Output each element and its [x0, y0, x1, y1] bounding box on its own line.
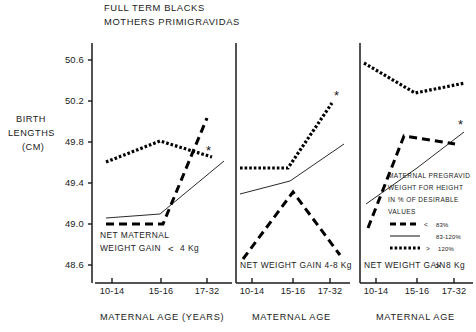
y-axis-label-line2: LENGTHS [8, 128, 55, 138]
legend-item-83-120: 83-120% [390, 234, 462, 240]
y-tick-49-4: 49.4 [65, 177, 84, 188]
panel-2-x-axis: 10-14 15-16 17-32 [236, 278, 350, 296]
panel-2-x-tick-1: 10-14 [240, 286, 265, 296]
panel-1-x-axis-label: MATERNAL AGE (YEARS) [100, 312, 224, 322]
y-tick-49-0: 49.0 [65, 218, 84, 229]
panel-3-significance-marker: * [458, 117, 463, 132]
birth-lengths-multi-panel-chart: FULL TERM BLACKS MOTHERS PRIMIGRAVIDAS B… [0, 0, 476, 332]
y-axis: 50.6 50.2 49.8 49.4 49.0 48.6 [65, 43, 92, 283]
panel-1-series-83-120 [106, 161, 224, 218]
panel-2-significance-marker: * [334, 88, 339, 103]
panel-2: 10-14 15-16 17-32 * NET WEIGHT GAIN 4-8 … [236, 43, 352, 322]
panel-3-caption-line1: NET WEIGHT GAIN [364, 260, 446, 270]
panel-2-x-tick-3: 17-32 [318, 286, 343, 296]
panel-1-x-tick-2: 15-16 [149, 286, 174, 296]
legend-operator-gt120: > [426, 245, 430, 252]
y-axis-label-line1: BIRTH [16, 114, 46, 124]
panel-3-caption-operator: > [435, 260, 441, 271]
panel-1: 10-14 15-16 17-32 * NET MATERNAL WEIGHT … [95, 118, 232, 322]
panel-3-x-axis: 10-14 15-16 17-32 [360, 278, 473, 296]
panel-1-x-axis: 10-14 15-16 17-32 [95, 278, 232, 296]
panel-1-caption-value: 4 Kg [180, 243, 199, 253]
panel-2-series-lt83 [243, 192, 340, 259]
chart-title-line1: FULL TERM BLACKS [104, 2, 205, 13]
legend: MATERNAL PREGRAVID WEIGHT FOR HEIGHT IN … [388, 172, 470, 252]
legend-title-line3: IN % OF DESIRABLE [388, 196, 459, 203]
panel-3-series-gt120 [364, 63, 465, 93]
panel-1-caption-line1: NET MATERNAL [100, 230, 169, 240]
y-tick-50-2: 50.2 [65, 95, 84, 106]
y-tick-49-8: 49.8 [65, 136, 84, 147]
legend-label-83-120: 83-120% [436, 234, 462, 240]
panel-1-x-tick-1: 10-14 [100, 286, 125, 296]
y-axis-label-line3: (CM) [22, 142, 44, 152]
legend-item-gt120: > 120% [390, 245, 454, 252]
panel-3-x-axis-label: MATERNAL AGE [376, 312, 455, 322]
legend-label-lt83: 83% [436, 222, 449, 228]
panel-2-x-axis-label: MATERNAL AGE [252, 312, 331, 322]
panel-3-x-tick-3: 17-32 [442, 286, 467, 296]
legend-operator-lt83: < [424, 221, 428, 228]
legend-label-gt120: 120% [438, 246, 454, 252]
legend-title-line4: VALUES [388, 208, 416, 215]
legend-title-line2: WEIGHT FOR HEIGHT [388, 184, 463, 191]
panel-1-caption-line2: WEIGHT GAIN [100, 243, 161, 253]
panel-2-x-tick-2: 15-16 [281, 286, 306, 296]
panel-3: 10-14 15-16 17-32 * MATERNAL PREGRAVID W… [360, 43, 473, 322]
legend-item-lt83: < 83% [390, 221, 449, 228]
panel-1-significance-marker: * [206, 143, 211, 158]
panel-3-x-tick-2: 15-16 [405, 286, 430, 296]
panel-1-series-lt83 [106, 118, 207, 224]
panel-3-x-tick-1: 10-14 [364, 286, 389, 296]
panel-3-caption-value: 8 Kg [446, 260, 465, 270]
y-tick-50-6: 50.6 [65, 54, 84, 65]
chart-title-line2: MOTHERS PRIMIGRAVIDAS [104, 16, 240, 27]
panel-1-caption-operator: < [168, 243, 174, 254]
panel-1-x-tick-3: 17-32 [195, 286, 220, 296]
panel-2-caption-line1: NET WEIGHT GAIN 4-8 Kg [240, 260, 352, 270]
legend-title-line1: MATERNAL PREGRAVID [388, 172, 470, 179]
panel-2-series-gt120 [240, 103, 332, 168]
y-tick-48-6: 48.6 [65, 259, 84, 270]
